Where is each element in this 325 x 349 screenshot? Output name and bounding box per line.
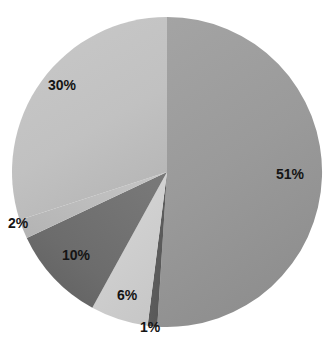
pie-label-2: 2% <box>8 216 28 230</box>
pie-label-51: 51% <box>276 167 304 181</box>
pie-chart-figure: 51% 1% 6% 10% 2% 30% <box>0 0 325 349</box>
pie-label-6: 6% <box>117 288 137 302</box>
pie-label-1: 1% <box>140 320 160 334</box>
pie-label-30: 30% <box>48 78 76 92</box>
pie-label-10: 10% <box>62 248 90 262</box>
